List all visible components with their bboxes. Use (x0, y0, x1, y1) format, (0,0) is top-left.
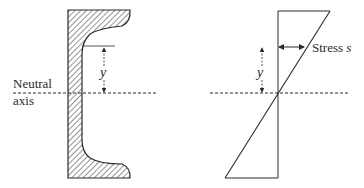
channel-section (68, 10, 130, 178)
stress-distribution (225, 11, 330, 178)
beam-bending-diagram: y Neutral axis Stress s y (0, 0, 364, 188)
neutral-label-line2: axis (13, 93, 34, 108)
left-dimension-y: y (82, 46, 115, 92)
left-y-label: y (98, 65, 107, 80)
right-y-label: y (255, 65, 264, 80)
channel-shape (68, 10, 130, 178)
stress-label: Stress s (312, 40, 351, 55)
neutral-label-line1: Neutral (13, 76, 52, 91)
stress-arrow: Stress s (279, 40, 351, 55)
right-dimension-y: y (255, 48, 264, 92)
